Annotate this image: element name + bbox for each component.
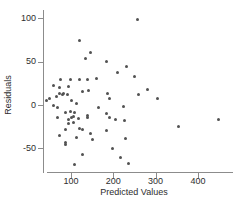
data-point	[58, 134, 61, 137]
data-point	[105, 129, 108, 132]
data-point	[77, 117, 80, 120]
data-point	[59, 78, 62, 81]
data-point	[75, 136, 78, 139]
data-point	[73, 111, 76, 114]
data-point	[64, 111, 67, 114]
data-point	[86, 116, 89, 119]
data-point	[64, 143, 67, 146]
data-point	[78, 39, 81, 42]
data-point	[69, 78, 72, 81]
data-point	[119, 156, 122, 159]
data-point	[127, 162, 130, 165]
data-point	[133, 75, 136, 78]
data-point	[217, 118, 220, 121]
data-point	[72, 121, 75, 124]
data-point	[95, 77, 98, 80]
data-point	[89, 51, 92, 54]
data-point	[108, 116, 111, 119]
data-point	[136, 18, 139, 21]
data-point	[156, 97, 159, 100]
data-point	[124, 137, 127, 140]
data-point	[52, 84, 55, 87]
data-point	[116, 71, 119, 74]
x-tick-label: 200	[98, 176, 128, 187]
y-tick-label: 50	[6, 56, 36, 67]
data-point	[78, 78, 81, 81]
data-point	[122, 105, 125, 108]
x-tick-label: 300	[141, 176, 171, 187]
data-point	[108, 97, 111, 100]
y-axis-tick	[38, 18, 43, 19]
data-point	[81, 153, 84, 156]
x-axis-label: Predicted Values	[84, 186, 184, 198]
data-point	[105, 112, 108, 115]
data-point	[114, 118, 117, 121]
data-point	[56, 106, 59, 109]
data-point	[86, 78, 89, 81]
data-point	[123, 119, 126, 122]
data-point	[81, 90, 84, 93]
data-point	[89, 132, 92, 135]
data-point	[67, 122, 70, 125]
data-point	[62, 92, 65, 95]
x-tick-label: 400	[183, 176, 213, 187]
data-point	[69, 110, 72, 113]
data-point	[70, 99, 73, 102]
y-axis-line	[43, 10, 44, 173]
data-point	[146, 88, 149, 91]
y-axis-tick	[38, 62, 43, 63]
data-point	[84, 57, 87, 60]
data-point	[56, 116, 59, 119]
x-axis-line	[47, 172, 233, 173]
y-axis-tick	[38, 148, 43, 149]
y-tick-label: -50	[6, 143, 36, 154]
data-point	[64, 128, 67, 131]
data-point	[67, 85, 70, 88]
data-point	[105, 60, 108, 63]
data-point	[55, 95, 58, 98]
data-point	[111, 147, 114, 150]
y-tick-label: 100	[6, 13, 36, 24]
data-point	[70, 116, 73, 119]
scatter-plot-figure: Residuals Predicted Values 100500-501002…	[0, 0, 239, 207]
data-point	[97, 106, 100, 109]
data-point	[58, 86, 61, 89]
data-point	[66, 93, 69, 96]
x-tick-label: 100	[56, 176, 86, 187]
data-point	[81, 128, 84, 131]
data-point	[177, 125, 180, 128]
data-point	[48, 97, 51, 100]
data-point	[91, 138, 94, 141]
y-axis-tick	[38, 105, 43, 106]
y-tick-label: 0	[6, 100, 36, 111]
data-point	[106, 92, 109, 95]
data-point	[87, 89, 90, 92]
data-point	[75, 102, 78, 105]
data-point	[52, 104, 55, 107]
data-point	[137, 93, 140, 96]
data-point	[125, 65, 128, 68]
data-point	[73, 163, 76, 166]
